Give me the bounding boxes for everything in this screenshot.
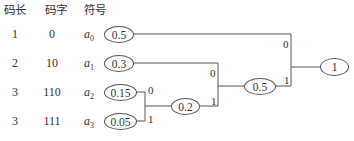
edge-label-a3: 1 bbox=[148, 113, 154, 125]
leaf-node-a3: 0.05 bbox=[104, 113, 137, 130]
internal-node-0-5: 0.5 bbox=[244, 78, 276, 95]
internal-node-0-2: 0.2 bbox=[171, 98, 200, 115]
leaf-node-a0: 0.5 bbox=[104, 26, 134, 43]
leaf-node-a1: 0.3 bbox=[104, 55, 134, 72]
leaf-node-a2: 0.15 bbox=[104, 84, 137, 101]
tree-connectors bbox=[0, 0, 354, 141]
edge-label-a1: 0 bbox=[210, 67, 216, 79]
edge-label-a2: 0 bbox=[148, 84, 154, 96]
edge-label-n02: 1 bbox=[211, 95, 217, 107]
root-node: 1 bbox=[320, 58, 349, 76]
edge-label-a0: 0 bbox=[283, 38, 289, 50]
edge-label-n05: 1 bbox=[284, 74, 290, 86]
